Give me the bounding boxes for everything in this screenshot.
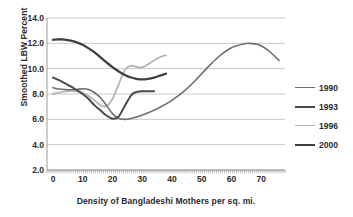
- x-axis-title: Density of Bangladeshi Mothers per sq. m…: [47, 196, 285, 206]
- series-line-2000: [53, 39, 166, 79]
- x-tick-label: 0: [51, 174, 56, 184]
- plot-svg: [47, 18, 285, 170]
- x-tick-label: 30: [137, 174, 146, 184]
- y-tick-label: 12.0: [8, 38, 44, 48]
- series-line-1993: [53, 78, 154, 119]
- line-chart: Smoothed LBW Percent 14.012.010.08.06.04…: [0, 0, 353, 217]
- x-tick-label: 20: [108, 174, 117, 184]
- y-tick-label: 8.0: [8, 89, 44, 99]
- y-tick-label: 14.0: [8, 13, 44, 23]
- x-tick-label: 40: [167, 174, 176, 184]
- legend-item-2000[interactable]: 2000: [295, 135, 351, 154]
- plot-area: [47, 18, 285, 170]
- legend-label: 1993: [319, 102, 338, 112]
- x-tick-label: 50: [197, 174, 206, 184]
- x-tick-label: 70: [256, 174, 265, 184]
- legend-label: 1996: [319, 121, 338, 131]
- x-tick-label: 10: [78, 174, 87, 184]
- legend-swatch-icon: [295, 125, 315, 126]
- legend-item-1993[interactable]: 1993: [295, 97, 351, 116]
- legend-item-1990[interactable]: 1990: [295, 78, 351, 97]
- x-axis-tick-labels: 010203040506070: [47, 174, 285, 188]
- legend-swatch-icon: [295, 106, 315, 108]
- x-tick-label: 60: [227, 174, 236, 184]
- legend-label: 2000: [319, 140, 338, 150]
- y-tick-label: 6.0: [8, 114, 44, 124]
- y-tick-label: 4.0: [8, 140, 44, 150]
- y-axis-tick-labels: 14.012.010.08.06.04.02.0: [8, 18, 44, 170]
- legend-swatch-icon: [295, 144, 315, 146]
- y-tick-label: 2.0: [8, 165, 44, 175]
- series-line-1996: [53, 55, 166, 106]
- legend-swatch-icon: [295, 87, 315, 88]
- legend-label: 1990: [319, 83, 338, 93]
- legend-item-1996[interactable]: 1996: [295, 116, 351, 135]
- chart-legend: 1990199319962000: [295, 78, 351, 154]
- y-tick-label: 10.0: [8, 64, 44, 74]
